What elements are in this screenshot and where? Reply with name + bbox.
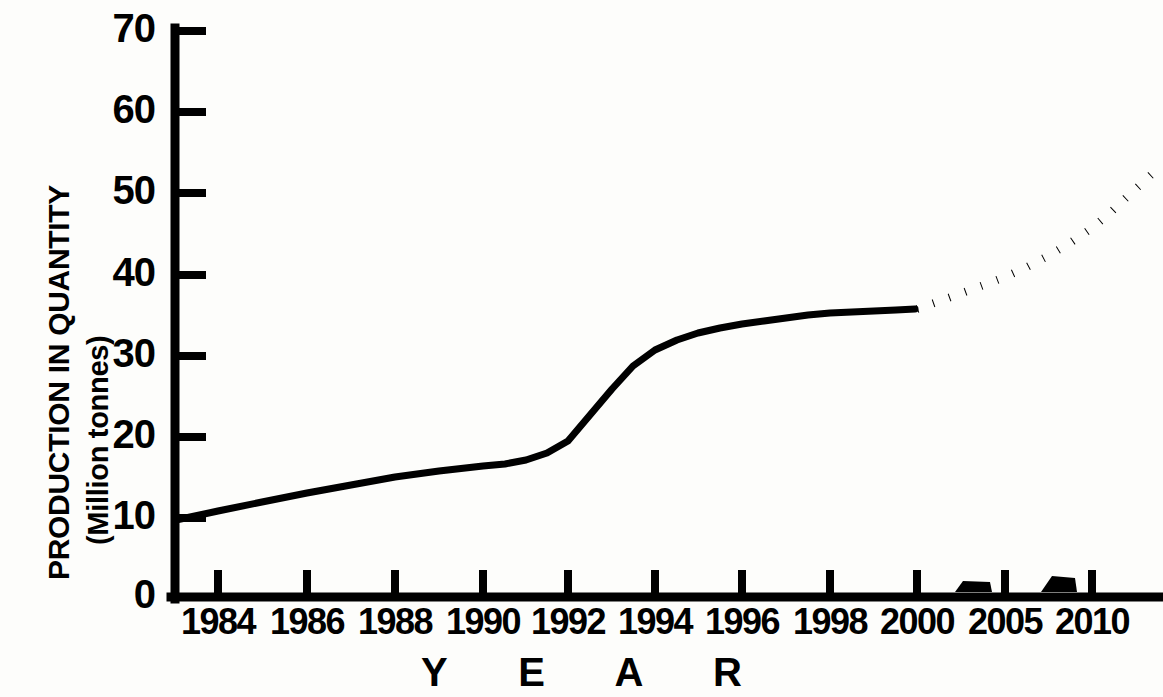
chart-plot-area (0, 0, 1163, 697)
y-tick-label-0: 0 (45, 574, 155, 614)
scan-artifacts (955, 576, 1077, 592)
y-tick-label-50: 50 (45, 170, 155, 210)
chart-figure: PRODUCTION IN QUANTITY (Million tonnes) … (0, 0, 1163, 697)
y-axis-ticks (175, 31, 206, 518)
series-line-actual-main (176, 309, 915, 520)
series-line-projected (917, 174, 1152, 309)
y-tick-label-60: 60 (45, 89, 155, 129)
x-axis-title: Y E A R (0, 650, 1163, 695)
y-tick-label-20: 20 (45, 414, 155, 454)
y-tick-label-10: 10 (45, 495, 155, 535)
y-tick-label-30: 30 (45, 333, 155, 373)
y-tick-label-70: 70 (45, 8, 155, 48)
y-tick-label-40: 40 (45, 252, 155, 292)
x-tick-label-2010: 2010 (1022, 604, 1162, 640)
